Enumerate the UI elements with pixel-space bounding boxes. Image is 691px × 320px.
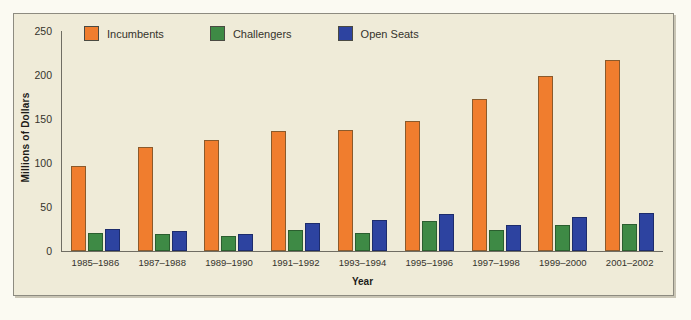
bar-incumbents[interactable] (538, 76, 553, 251)
x-axis-tick-labels: 1985–19861987–19881989–19901991–19921993… (62, 257, 663, 268)
bar-incumbents[interactable] (271, 131, 286, 251)
x-tick-label: 1993–1994 (329, 257, 396, 268)
bar-group (262, 31, 329, 251)
bar-incumbents[interactable] (605, 60, 620, 251)
bar-group (196, 31, 263, 251)
chart-panel: IncumbentsChallengersOpen Seats Millions… (13, 13, 674, 296)
y-tick-label: 50 (22, 201, 52, 213)
x-tick-label: 1999–2000 (529, 257, 596, 268)
bar-challengers[interactable] (88, 233, 103, 251)
bar-open-seats[interactable] (572, 217, 587, 251)
bar-challengers[interactable] (555, 225, 570, 251)
y-tick-label: 200 (22, 69, 52, 81)
bar-incumbents[interactable] (338, 130, 353, 251)
bar-group (463, 31, 530, 251)
y-tick-label: 0 (22, 245, 52, 257)
bar-challengers[interactable] (155, 234, 170, 251)
x-axis-title: Year (62, 276, 663, 287)
x-tick-label: 2001–2002 (596, 257, 663, 268)
bar-challengers[interactable] (355, 233, 370, 251)
bar-challengers[interactable] (622, 224, 637, 251)
bar-challengers[interactable] (288, 230, 303, 251)
x-tick-label: 1991–1992 (262, 257, 329, 268)
bar-open-seats[interactable] (372, 220, 387, 251)
x-axis-line (61, 251, 663, 252)
bar-incumbents[interactable] (204, 140, 219, 251)
bar-challengers[interactable] (221, 236, 236, 251)
y-tick-label: 150 (22, 113, 52, 125)
bars-container (62, 31, 663, 251)
bar-open-seats[interactable] (639, 213, 654, 251)
bar-group (62, 31, 129, 251)
bar-group (529, 31, 596, 251)
bar-group (129, 31, 196, 251)
bar-incumbents[interactable] (71, 166, 86, 251)
y-tick-label: 250 (22, 25, 52, 37)
x-tick-label: 1987–1988 (129, 257, 196, 268)
x-tick-label: 1985–1986 (62, 257, 129, 268)
plot-area: Millions of Dollars 250200150100500 1985… (14, 14, 675, 297)
bar-open-seats[interactable] (506, 225, 521, 251)
bar-chart-figure: IncumbentsChallengersOpen Seats Millions… (0, 0, 691, 320)
bar-incumbents[interactable] (138, 147, 153, 251)
bar-group (396, 31, 463, 251)
x-tick-label: 1995–1996 (396, 257, 463, 268)
bar-incumbents[interactable] (472, 99, 487, 251)
x-tick-label: 1997–1998 (463, 257, 530, 268)
bar-open-seats[interactable] (105, 229, 120, 251)
y-axis-tick-labels: 250200150100500 (22, 14, 52, 297)
bar-open-seats[interactable] (172, 231, 187, 251)
bar-open-seats[interactable] (305, 223, 320, 251)
y-tick-label: 100 (22, 157, 52, 169)
bar-group (596, 31, 663, 251)
bar-open-seats[interactable] (439, 214, 454, 251)
x-tick-label: 1989–1990 (196, 257, 263, 268)
bar-challengers[interactable] (422, 221, 437, 251)
bar-incumbents[interactable] (405, 121, 420, 251)
bar-group (329, 31, 396, 251)
bar-open-seats[interactable] (238, 234, 253, 251)
bar-challengers[interactable] (489, 230, 504, 251)
